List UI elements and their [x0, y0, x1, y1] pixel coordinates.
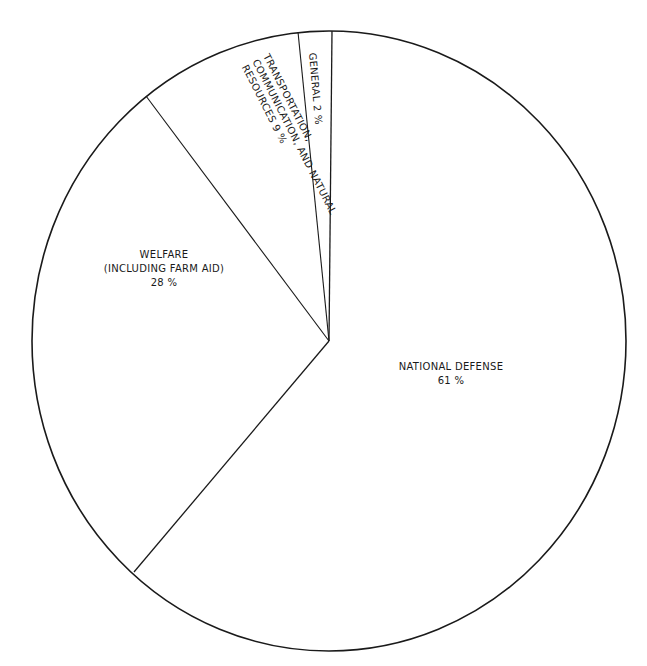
label-welfare-sub: (INCLUDING FARM AID) [104, 263, 225, 274]
label-defense-value: 61 % [438, 375, 465, 386]
label-defense-name: NATIONAL DEFENSE [399, 361, 504, 372]
label-welfare-value: 28 % [151, 277, 178, 288]
pie-chart: NATIONAL DEFENSE 61 % WELFARE (INCLUDING… [0, 0, 647, 666]
label-welfare-name: WELFARE [140, 249, 189, 260]
